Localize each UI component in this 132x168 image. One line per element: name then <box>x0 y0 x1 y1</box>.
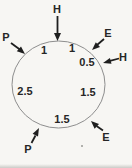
speck-artifact <box>81 145 83 147</box>
arrow-lower-right-icon <box>91 121 103 131</box>
outer-label-upper-right: E <box>104 28 111 39</box>
inner-value-right-upper: 0.5 <box>79 57 94 68</box>
inner-value-bottom: 1.5 <box>54 114 69 125</box>
arrow-top-icon <box>54 16 61 41</box>
outer-label-top: H <box>53 4 61 15</box>
inner-value-right-lower: 1.5 <box>80 87 95 98</box>
scan-edge-shadow <box>0 164 132 168</box>
outer-label-lower-left: P <box>24 144 31 155</box>
figure-canvas: H P E H E P 1 1 0.5 2.5 1.5 1.5 <box>0 0 132 168</box>
arrow-upper-left-icon <box>11 43 25 54</box>
outer-label-right: H <box>119 52 127 63</box>
outer-label-upper-left: P <box>2 32 9 43</box>
outer-label-lower-right: E <box>102 132 109 143</box>
inner-value-upper-left: 1 <box>41 45 47 56</box>
arrow-upper-right-icon <box>92 39 104 50</box>
arrow-lower-left-icon <box>32 128 40 143</box>
inner-value-left: 2.5 <box>17 86 32 97</box>
arrow-right-icon <box>103 58 119 64</box>
inner-value-upper-right: 1 <box>69 43 75 54</box>
